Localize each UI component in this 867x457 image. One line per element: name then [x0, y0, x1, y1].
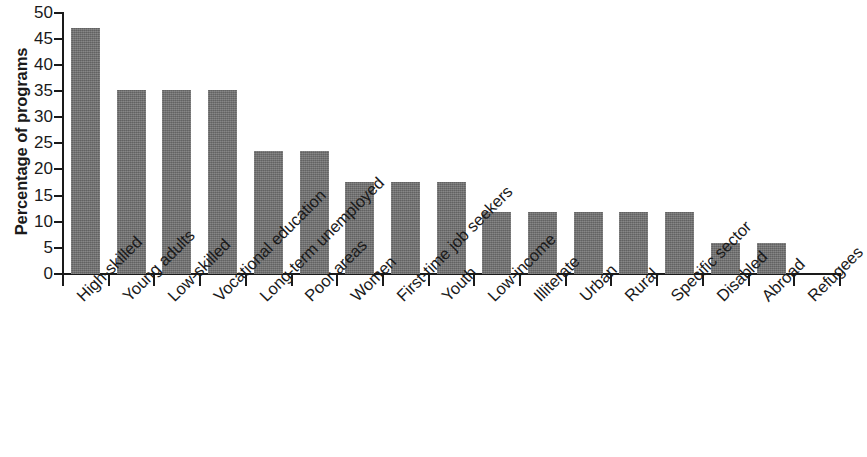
- y-axis-tick-label: 20: [7, 160, 53, 177]
- y-axis-tick: [54, 221, 63, 223]
- y-axis-tick-label: 5: [7, 239, 53, 256]
- bar: [665, 212, 694, 274]
- y-axis-tick: [54, 116, 63, 118]
- y-axis-tick: [54, 90, 63, 92]
- y-axis-tick-label: 50: [7, 4, 53, 21]
- y-axis-tick-label: 40: [7, 56, 53, 73]
- bar: [71, 28, 100, 274]
- y-axis-tick-label: 0: [7, 265, 53, 282]
- y-axis-tick-label: 35: [7, 82, 53, 99]
- y-axis-tick-label: 15: [7, 187, 53, 204]
- y-axis-tick: [54, 38, 63, 40]
- y-axis-tick-label: 25: [7, 134, 53, 151]
- bar: [619, 212, 648, 274]
- y-axis-tick: [54, 64, 63, 66]
- y-axis-tick: [54, 247, 63, 249]
- y-axis-tick-label: 10: [7, 213, 53, 230]
- x-axis-tick: [62, 275, 64, 286]
- y-axis-tick: [54, 12, 63, 14]
- y-axis-tick: [54, 195, 63, 197]
- y-axis-tick: [54, 168, 63, 170]
- y-axis-tick-label: 45: [7, 30, 53, 47]
- y-axis-tick-label: 30: [7, 108, 53, 125]
- y-axis-tick: [54, 142, 63, 144]
